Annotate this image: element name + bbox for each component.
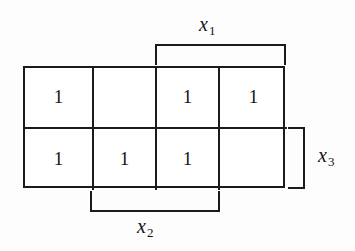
bracket-x2 <box>90 190 220 212</box>
kmap-cell-r1c1: 1 <box>25 68 94 129</box>
variable-label-x3: x3 <box>318 145 333 165</box>
bracket-x1-right-tick <box>284 44 286 65</box>
kmap-cell-r1c2 <box>94 68 157 129</box>
variable-label-x1: x1 <box>199 14 214 34</box>
bracket-x1-bar <box>155 44 286 46</box>
bracket-x1 <box>155 44 286 66</box>
kmap-cell-r1c4: 1 <box>220 68 287 129</box>
kmap-cell-value: 1 <box>54 87 64 106</box>
kmap-cell-value: 1 <box>183 87 193 106</box>
bracket-x2-bar <box>90 210 220 212</box>
variable-label-x2-base: x <box>137 215 146 237</box>
variable-label-x3-base: x <box>318 144 327 166</box>
kmap-cell-value: 1 <box>120 149 130 168</box>
variable-label-x2-subscript: 2 <box>147 225 154 240</box>
kmap-grid: 1 1 1 1 1 1 <box>23 66 285 188</box>
kmap-cell-r2c4 <box>220 129 287 190</box>
variable-label-x3-subscript: 3 <box>328 154 335 169</box>
kmap-cell-r1c3: 1 <box>157 68 220 129</box>
variable-label-x2: x2 <box>137 216 152 236</box>
kmap-cell-value: 1 <box>249 87 259 106</box>
bracket-x3-bottom-tick <box>288 187 305 189</box>
kmap-cell-r2c3: 1 <box>157 129 220 190</box>
kmap-cell-value: 1 <box>183 149 193 168</box>
bracket-x3-bar <box>303 127 305 189</box>
kmap-cell-r2c1: 1 <box>25 129 94 190</box>
kmap-cell-value: 1 <box>54 149 64 168</box>
variable-label-x1-subscript: 1 <box>209 23 216 38</box>
variable-label-x1-base: x <box>199 13 208 35</box>
bracket-x1-left-tick <box>155 44 157 65</box>
bracket-x3-top-tick <box>288 127 305 129</box>
bracket-x2-left-tick <box>90 191 92 212</box>
kmap-cell-r2c2: 1 <box>94 129 157 190</box>
bracket-x3 <box>288 127 305 189</box>
kmap-diagram-canvas: 1 1 1 1 1 1 <box>0 0 355 251</box>
bracket-x2-right-tick <box>218 191 220 212</box>
